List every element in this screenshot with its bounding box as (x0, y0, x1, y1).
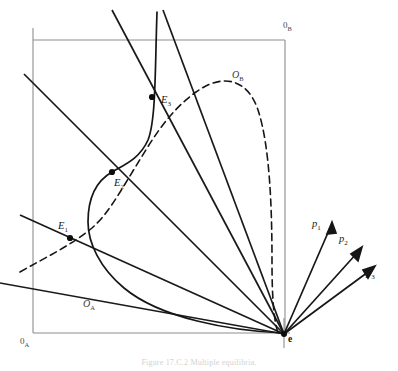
origin-b-label: 0B (283, 21, 292, 32)
figure-container: 0A 0B E1 E2 E3 OA OB p1 p2 p3 e Figure 1… (0, 0, 398, 371)
price-vectors-group (284, 222, 375, 334)
price-vector-1-head (327, 222, 336, 234)
price-vector-1-shaft (284, 228, 330, 334)
endowment-label: e (288, 335, 292, 345)
figure-caption: Figure 17.C.2 Multiple equilibria. (0, 358, 398, 367)
budget-line-3 (112, 10, 284, 334)
offer-curve-b-path (20, 81, 278, 333)
origin-a-label: 0A (20, 337, 29, 348)
equilibrium-label-3: E3 (161, 95, 171, 108)
endowment-point (281, 331, 287, 337)
offer-curve-a-label: OA (83, 299, 95, 312)
equilibrium-point-3 (149, 94, 155, 100)
budget-line-4 (163, 10, 284, 334)
price-vector-2-shaft (284, 253, 357, 334)
offer-curve-b-label: OB (232, 70, 244, 83)
equilibrium-point-1 (67, 235, 73, 241)
equilibrium-label-1: E1 (58, 221, 68, 234)
edgeworth-box-diagram (0, 0, 398, 371)
edgeworth-box-frame (33, 28, 290, 348)
price-vector-label-3: p3 (366, 268, 375, 281)
price-vector-label-1: p1 (312, 219, 321, 232)
equilibrium-point-2 (109, 169, 115, 175)
equilibrium-label-2: E2 (114, 178, 124, 191)
budget-lines-group (0, 10, 284, 334)
price-vector-label-2: p2 (339, 234, 348, 247)
offer-curve-a-path (88, 12, 284, 333)
